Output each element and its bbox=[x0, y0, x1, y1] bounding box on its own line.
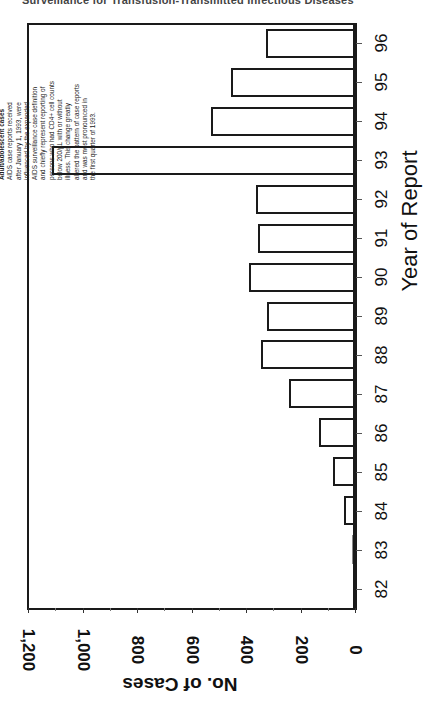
annotation-line: and was most pronounced in bbox=[81, 60, 89, 180]
category-tick bbox=[356, 277, 362, 278]
value-tick bbox=[83, 608, 84, 613]
category-label: 84 bbox=[372, 491, 392, 531]
category-label: 96 bbox=[372, 23, 392, 63]
value-tick bbox=[192, 608, 193, 613]
value-minor-tick bbox=[328, 608, 329, 611]
bar-86 bbox=[319, 418, 355, 447]
category-tick bbox=[356, 355, 362, 356]
bar-92 bbox=[256, 185, 355, 214]
value-tick bbox=[355, 608, 356, 613]
category-label: 89 bbox=[372, 296, 392, 336]
value-axis-title: No. of Cases bbox=[110, 672, 250, 696]
category-label: 95 bbox=[372, 62, 392, 102]
value-label: 1,200 bbox=[18, 620, 38, 680]
category-tick bbox=[356, 316, 362, 317]
annotation-line: the first quarter of 1993. bbox=[89, 60, 97, 180]
category-label: 94 bbox=[372, 101, 392, 141]
category-tick bbox=[356, 394, 362, 395]
category-label: 83 bbox=[372, 530, 392, 570]
bar-88 bbox=[261, 340, 355, 369]
category-tick bbox=[356, 472, 362, 473]
bar-96 bbox=[266, 29, 355, 58]
category-tick bbox=[356, 121, 362, 122]
value-minor-tick bbox=[110, 608, 111, 611]
bar-91 bbox=[258, 224, 355, 253]
bar-89 bbox=[267, 302, 355, 331]
value-tick bbox=[137, 608, 138, 613]
category-label: 90 bbox=[372, 257, 392, 297]
annotation-body: AIDS case reports receivedafter January … bbox=[6, 60, 97, 180]
bar-90 bbox=[249, 263, 355, 292]
value-tick bbox=[301, 608, 302, 613]
category-axis-title: Year of Report bbox=[397, 141, 423, 301]
bar-95 bbox=[231, 68, 355, 97]
value-minor-tick bbox=[164, 608, 165, 611]
bar-94 bbox=[211, 107, 355, 136]
value-label: 400 bbox=[236, 620, 256, 680]
annotation-line: and chiefly represent reporting of bbox=[39, 60, 47, 180]
value-label: 0 bbox=[345, 620, 365, 680]
value-tick bbox=[246, 608, 247, 613]
value-label: 1,000 bbox=[73, 620, 93, 680]
annotation-line: after January 1, 1993, were bbox=[15, 60, 23, 180]
category-tick bbox=[356, 550, 362, 551]
chart-annotation: Adult/adolescent cases AIDS case reports… bbox=[0, 60, 98, 180]
category-tick bbox=[356, 238, 362, 239]
category-tick bbox=[356, 82, 362, 83]
annotation-line: persons who had CD4+ cell counts bbox=[48, 60, 56, 180]
running-header: Surveillance for Transfusion-Transmitted… bbox=[22, 0, 422, 6]
category-label: 82 bbox=[372, 569, 392, 609]
category-tick bbox=[356, 199, 362, 200]
category-label: 88 bbox=[372, 335, 392, 375]
category-tick bbox=[356, 511, 362, 512]
annotation-line: illness. This change greatly bbox=[64, 60, 72, 180]
annotation-line: altered the pattern of case reports bbox=[73, 60, 81, 180]
category-tick bbox=[356, 160, 362, 161]
category-tick bbox=[356, 433, 362, 434]
annotation-line: AIDS case reports received bbox=[6, 60, 14, 180]
value-label: 600 bbox=[182, 620, 202, 680]
bar-87 bbox=[289, 379, 355, 408]
value-minor-tick bbox=[219, 608, 220, 611]
category-tick bbox=[356, 43, 362, 44]
category-label: 91 bbox=[372, 218, 392, 258]
value-label: 200 bbox=[291, 620, 311, 680]
category-label: 92 bbox=[372, 179, 392, 219]
category-label: 93 bbox=[372, 140, 392, 180]
value-minor-tick bbox=[273, 608, 274, 611]
category-tick bbox=[356, 589, 362, 590]
annotation-line: below 200/µL with or without bbox=[56, 60, 64, 180]
category-label: 86 bbox=[372, 413, 392, 453]
category-label: 87 bbox=[372, 374, 392, 414]
value-tick bbox=[28, 608, 29, 613]
bar-85 bbox=[333, 457, 355, 486]
value-label: 800 bbox=[127, 620, 147, 680]
value-minor-tick bbox=[55, 608, 56, 611]
annotation-line: influenced by the expanded bbox=[23, 60, 31, 180]
annotation-line: AIDS surveillance case definition bbox=[31, 60, 39, 180]
category-label: 85 bbox=[372, 452, 392, 492]
